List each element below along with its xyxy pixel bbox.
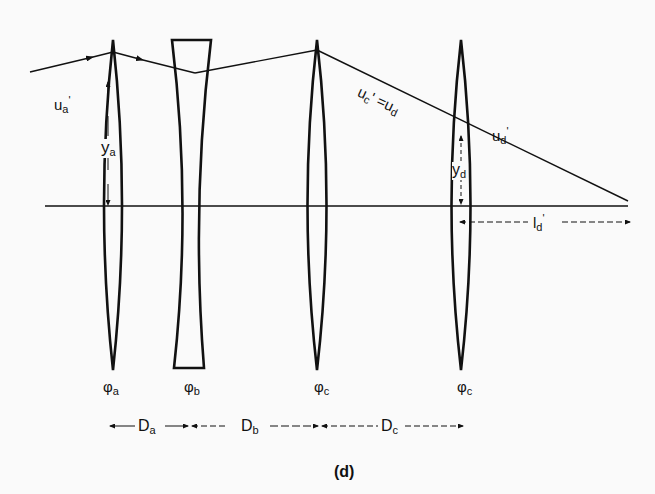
label-ld-prime: ld' [533, 213, 545, 233]
figure-caption: (d) [334, 463, 354, 481]
label-phi-d: φc [457, 379, 472, 397]
lens-d [452, 40, 471, 370]
label-phi-a: φa [103, 379, 119, 397]
label-phi-c: φc [314, 379, 329, 397]
label-ya: ya [101, 139, 116, 158]
label-phi-b: φb [184, 379, 200, 397]
lens-b [172, 40, 211, 368]
lens-a [104, 40, 122, 370]
label-ua: ua' [54, 95, 71, 115]
label-Da: Da [138, 418, 156, 436]
label-yd: yd [452, 162, 466, 180]
label-Db: Db [241, 418, 259, 436]
lens-c [308, 40, 327, 370]
label-ud-prime: ud' [492, 126, 509, 146]
label-Dc: Dc [381, 418, 398, 436]
optical-system-diagram [0, 0, 655, 494]
